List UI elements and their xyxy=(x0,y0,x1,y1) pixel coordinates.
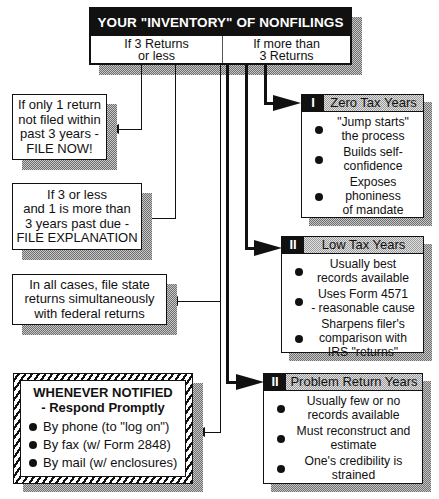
header-col-3-or-less: If 3 Returns or less xyxy=(91,36,223,63)
item-text-line: Usually few or no xyxy=(285,395,422,409)
category-item: Exposesphoninessof mandate xyxy=(302,176,423,217)
category-zero-tax-years: I Zero Tax Years "Jump starts"the proces… xyxy=(301,94,424,218)
bullet-icon xyxy=(29,459,37,467)
category-title: Zero Tax Years xyxy=(324,95,423,111)
arrow-right-icon xyxy=(273,95,301,111)
item-text-line: confidence xyxy=(323,160,423,174)
bullet-icon xyxy=(277,465,285,473)
box-text-line: FILE EXPLANATION xyxy=(13,231,141,246)
item-text-line: "Jump starts" xyxy=(323,116,423,130)
item-text-line: comparison with xyxy=(303,332,423,346)
box-text-line: 3 years past due - xyxy=(13,217,141,232)
header-col-more-than-3: If more than 3 Returns xyxy=(223,36,350,63)
category-numeral: II xyxy=(282,237,304,253)
item-text-line: records available xyxy=(285,409,422,423)
category-title: Problem Return Years xyxy=(286,374,422,390)
whenever-notified-box: WHENEVER NOTIFIED - Respond Promptly By … xyxy=(13,373,193,484)
connector-line-thick xyxy=(264,65,267,105)
bullet-icon xyxy=(29,423,37,431)
category-problem-return-years: II Problem Return Years Usually few or n… xyxy=(263,373,423,484)
connector-line xyxy=(177,301,221,302)
bullet-icon xyxy=(29,441,37,449)
notice-list: By phone (to "log on") By fax (w/ Form 2… xyxy=(21,418,185,472)
header-title: YOUR "INVENTORY" OF NONFILINGS xyxy=(91,9,350,36)
category-header: II Problem Return Years xyxy=(264,374,422,391)
item-text-line: - reasonable cause xyxy=(303,302,423,316)
category-header: II Low Tax Years xyxy=(282,237,423,254)
bullet-icon xyxy=(295,298,303,306)
connector-line xyxy=(141,65,142,130)
item-text-line: phoniness xyxy=(323,190,423,204)
arrow-right-icon xyxy=(254,240,282,256)
category-item: Must reconstruct andestimate xyxy=(264,425,422,452)
bullet-icon xyxy=(295,335,303,343)
box-text-line: past 3 years - xyxy=(13,127,106,142)
item-text-line: of mandate xyxy=(323,204,423,218)
connector-line-thick xyxy=(245,65,248,250)
item-text-line: records available xyxy=(303,272,423,286)
item-text-line: One's credibility is xyxy=(285,455,422,469)
header-col-line: 3 Returns xyxy=(223,50,350,62)
category-numeral: I xyxy=(302,95,324,111)
header-col-line: If more than xyxy=(223,38,350,50)
item-text-line: the process xyxy=(323,130,423,144)
header-col-line: or less xyxy=(91,50,222,62)
item-text-line: Must reconstruct and xyxy=(285,425,422,439)
connector-line xyxy=(150,218,176,219)
notice-item: By phone (to "log on") xyxy=(29,418,185,436)
notice-subtitle: - Respond Promptly xyxy=(21,400,185,415)
category-item: Sharpens filer'scomparison withIRS "retu… xyxy=(282,318,423,359)
item-text-line: Sharpens filer's xyxy=(303,318,423,332)
category-item: Builds self-confidence xyxy=(302,146,423,173)
box-text-line: In all cases, file state xyxy=(13,278,166,293)
notice-title: WHENEVER NOTIFIED xyxy=(21,385,185,400)
category-header: I Zero Tax Years xyxy=(302,95,423,112)
box-text-line: not filed within xyxy=(13,113,106,128)
category-item: "Jump starts"the process xyxy=(302,116,423,143)
category-low-tax-years: II Low Tax Years Usually bestrecords ava… xyxy=(281,236,424,353)
bullet-icon xyxy=(277,435,285,443)
item-text-line: Exposes xyxy=(323,176,423,190)
category-item: One's credibility isstrained xyxy=(264,455,422,482)
notice-item: By mail (w/ enclosures) xyxy=(29,454,185,472)
notice-item-text: By fax (w/ Form 2848) xyxy=(43,436,171,454)
box-text-line: returns simultaneously xyxy=(13,292,166,307)
file-explanation-box: If 3 or less and 1 is more than 3 years … xyxy=(12,183,142,250)
item-text-line: Uses Form 4571 xyxy=(303,288,423,302)
connector-line xyxy=(118,129,142,130)
category-item: Usually few or norecords available xyxy=(264,395,422,422)
connector-line xyxy=(204,432,221,433)
header-col-line: If 3 Returns xyxy=(91,38,222,50)
notice-item-text: By mail (w/ enclosures) xyxy=(43,454,177,472)
item-text-line: estimate xyxy=(285,439,422,453)
notice-item: By fax (w/ Form 2848) xyxy=(29,436,185,454)
box-text-line: If only 1 return xyxy=(13,98,106,113)
category-numeral: II xyxy=(264,374,286,390)
inventory-header: YOUR "INVENTORY" OF NONFILINGS If 3 Retu… xyxy=(89,7,352,65)
item-text-line: strained xyxy=(285,469,422,483)
category-item: Usually bestrecords available xyxy=(282,258,423,285)
box-text-line: and 1 is more than xyxy=(13,202,141,217)
state-returns-box: In all cases, file state returns simulta… xyxy=(12,274,167,325)
box-text-line: If 3 or less xyxy=(13,188,141,203)
item-text-line: IRS "returns" xyxy=(303,346,423,360)
connector-line-thick xyxy=(226,65,229,384)
box-text-line: FILE NOW! xyxy=(13,142,106,157)
bullet-icon xyxy=(295,268,303,276)
bullet-icon xyxy=(315,193,323,201)
connector-line xyxy=(175,65,176,219)
connector-line xyxy=(220,65,221,433)
category-title: Low Tax Years xyxy=(304,237,423,253)
box-text-line: with federal returns xyxy=(13,307,166,322)
file-now-box: If only 1 return not filed within past 3… xyxy=(12,94,107,160)
bullet-icon xyxy=(315,126,323,134)
category-item: Uses Form 4571- reasonable cause xyxy=(282,288,423,315)
item-text-line: Builds self- xyxy=(323,146,423,160)
item-text-line: Usually best xyxy=(303,258,423,272)
arrow-right-icon xyxy=(236,374,264,390)
bullet-icon xyxy=(315,156,323,164)
bullet-icon xyxy=(277,405,285,413)
notice-item-text: By phone (to "log on") xyxy=(43,418,169,436)
